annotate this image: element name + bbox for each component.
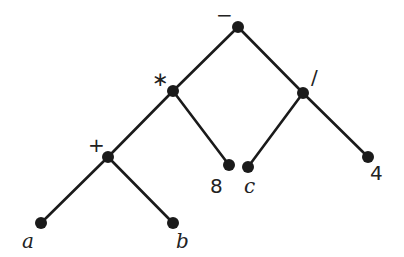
label-root: − bbox=[216, 3, 233, 27]
edge-mul-n8 bbox=[173, 91, 229, 165]
node-b bbox=[167, 217, 179, 229]
node-c bbox=[242, 161, 254, 173]
label-a: a bbox=[22, 229, 34, 253]
node-n8 bbox=[223, 159, 235, 171]
label-add: + bbox=[88, 133, 105, 157]
node-mul bbox=[167, 85, 179, 97]
label-b: b bbox=[176, 229, 189, 253]
label-mul: ∗ bbox=[152, 67, 169, 91]
edge-mul-add bbox=[108, 91, 173, 157]
tree-nodes bbox=[35, 21, 374, 229]
tree-edges bbox=[41, 27, 368, 223]
node-a bbox=[35, 217, 47, 229]
edge-add-b bbox=[108, 157, 173, 223]
node-root bbox=[232, 21, 244, 33]
edge-root-mul bbox=[173, 27, 238, 91]
edge-add-a bbox=[41, 157, 108, 223]
label-div: / bbox=[311, 65, 318, 89]
label-n4: 4 bbox=[370, 161, 383, 185]
label-c: c bbox=[244, 174, 255, 198]
edge-root-div bbox=[238, 27, 303, 93]
expression-tree-diagram: −∗/+8c4ab bbox=[0, 0, 404, 257]
edge-div-n4 bbox=[303, 93, 368, 157]
edge-div-c bbox=[248, 93, 303, 167]
node-div bbox=[297, 87, 309, 99]
label-n8: 8 bbox=[210, 174, 223, 198]
